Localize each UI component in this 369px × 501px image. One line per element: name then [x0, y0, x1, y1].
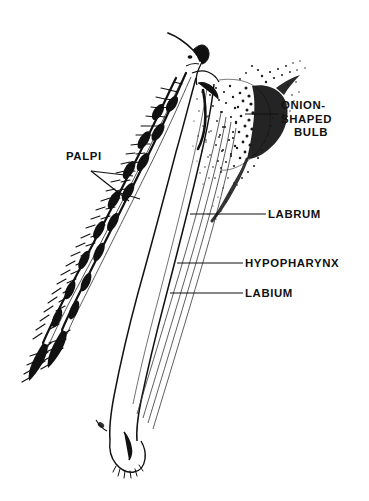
label-onion-line-2: SHAPED [281, 113, 332, 125]
label-palpi: PALPI [66, 150, 102, 164]
label-hypopharynx: HYPOPHARYNX [245, 257, 339, 271]
label-onion-shaped-bulb: ONION-SHAPEDBULB [281, 99, 332, 140]
label-labrum: LABRUM [268, 208, 321, 222]
label-onion-line-3: BULB [281, 126, 332, 140]
mosquito-mouthparts-figure: PALPI ONION-SHAPEDBULB LABRUM HYPOPHARYN… [0, 0, 369, 501]
label-onion-line-1: ONION- [281, 99, 326, 111]
apex-eye-dot-icon [188, 55, 193, 58]
label-labium: LABIUM [245, 287, 293, 301]
anatomical-illustration [0, 0, 369, 501]
